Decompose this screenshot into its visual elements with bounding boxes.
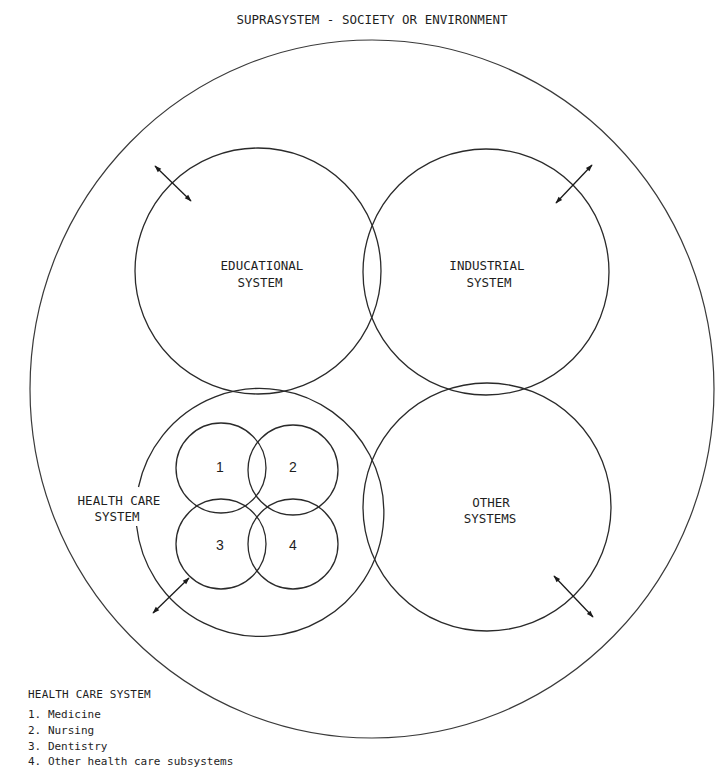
legend-item-label: Nursing [48,724,94,737]
legend-title: HEALTH CARE SYSTEM [28,688,233,701]
legend-item-label: Other health care subsystems [48,755,233,768]
legend-item: 1. Medicine [28,707,233,723]
health-care-system-label-line1: HEALTH CARE [78,493,161,508]
legend-item-number: 4. [28,755,41,768]
other-systems-label-line1: OTHER [472,495,510,510]
subsystem-number-1: 1 [216,459,224,475]
educational-system-label-line2: SYSTEM [237,275,282,290]
legend-item-label: Dentistry [48,740,108,753]
legend-item-number: 1. [28,708,41,721]
legend-item: 4. Other health care subsystems [28,754,233,770]
double-arrow-icon [556,165,592,203]
legend-item-number: 3. [28,740,41,753]
subsystem-number-4: 4 [289,537,297,553]
other-systems: OTHER SYSTEMS [363,383,611,631]
health-care-system-label-line2: SYSTEM [94,509,139,524]
legend-item: 2. Nursing [28,723,233,739]
industrial-system-label-line2: SYSTEM [466,275,511,290]
educational-system: EDUCATIONAL SYSTEM [135,148,381,394]
legend-item-number: 2. [28,724,41,737]
legend: HEALTH CARE SYSTEM 1. Medicine 2. Nursin… [28,688,233,770]
other-systems-label-line2: SYSTEMS [464,511,517,526]
industrial-system-label-line1: INDUSTRIAL [449,258,524,273]
subsystem-number-3: 3 [216,537,224,553]
diagram-title: SUPRASYSTEM - SOCIETY OR ENVIRONMENT [237,12,508,27]
health-care-system: HEALTH CARE SYSTEM 1 2 3 4 [78,388,384,636]
industrial-system: INDUSTRIAL SYSTEM [363,149,609,395]
suprasystem-diagram: SUPRASYSTEM - SOCIETY OR ENVIRONMENT EDU… [0,0,717,782]
suprasystem-circle [30,40,714,738]
subsystem-number-2: 2 [289,459,297,475]
double-arrow-icon [554,576,593,617]
legend-item: 3. Dentistry [28,739,233,755]
legend-item-label: Medicine [48,708,101,721]
educational-system-label-line1: EDUCATIONAL [221,258,304,273]
